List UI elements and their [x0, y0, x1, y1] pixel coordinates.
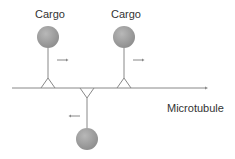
motor-feet-1 — [41, 78, 55, 88]
cargo-sphere-2 — [113, 26, 135, 48]
cargo-label-2: Cargo — [111, 8, 141, 20]
motor-1 — [37, 26, 69, 88]
cargo-sphere-1 — [37, 26, 59, 48]
motor-feet-2 — [117, 78, 131, 88]
motor-3 — [69, 88, 99, 150]
motor-feet-3 — [80, 88, 94, 98]
cargo-sphere-3 — [76, 128, 98, 150]
motor-2 — [113, 26, 145, 88]
cargo-label-1: Cargo — [35, 8, 65, 20]
right-arrow-icon — [57, 59, 69, 62]
microtubule-label: Microtubule — [167, 102, 224, 114]
left-arrow-icon — [69, 115, 81, 118]
right-arrow-icon — [133, 59, 145, 62]
diagram-canvas — [0, 0, 235, 159]
